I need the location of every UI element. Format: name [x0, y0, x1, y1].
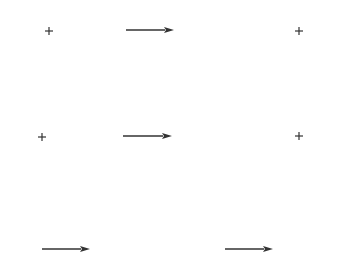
plus-icon [38, 133, 46, 141]
arrow-right-icon [126, 27, 174, 33]
plus-icon [295, 27, 303, 35]
arrows-group [42, 27, 273, 252]
arrow-right-icon [42, 246, 90, 252]
plus-icon [45, 27, 53, 35]
arrow-right-icon [225, 246, 273, 252]
plus-icon [295, 132, 303, 140]
arrow-right-icon [123, 133, 172, 139]
plus-markers-group [38, 27, 303, 141]
diagram-canvas [0, 0, 351, 274]
